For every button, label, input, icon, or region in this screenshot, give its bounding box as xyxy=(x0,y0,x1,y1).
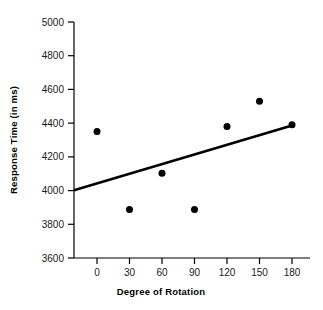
y-tick-label-3600: 3600 xyxy=(42,253,65,264)
data-point-180deg xyxy=(289,121,296,128)
x-axis-title: Degree of Rotation xyxy=(117,286,206,297)
data-point-30deg xyxy=(126,206,133,213)
data-point-120deg xyxy=(224,123,231,130)
y-tick-label-4800: 4800 xyxy=(42,50,65,61)
x-tick-label-30: 30 xyxy=(124,267,136,278)
data-point-150deg xyxy=(256,98,263,105)
y-axis-title: Response Time (in ms) xyxy=(8,86,19,194)
y-tick-label-4000: 4000 xyxy=(42,185,65,196)
data-point-60deg xyxy=(159,170,166,177)
data-point-0deg xyxy=(94,128,101,135)
x-tick-label-150: 150 xyxy=(251,267,268,278)
x-tick-label-90: 90 xyxy=(189,267,201,278)
x-tick-label-180: 180 xyxy=(284,267,301,278)
y-tick-label-4400: 4400 xyxy=(42,118,65,129)
data-point-90deg xyxy=(191,206,198,213)
y-tick-label-3800: 3800 xyxy=(42,219,65,230)
x-tick-label-120: 120 xyxy=(219,267,236,278)
y-tick-label-5000: 5000 xyxy=(42,17,65,28)
scatter-plot-figure: 3600 3800 4000 4200 4400 4600 4800 5000 … xyxy=(0,0,323,310)
x-tick-label-60: 60 xyxy=(156,267,168,278)
x-tick-label-0: 0 xyxy=(94,267,100,278)
y-tick-label-4600: 4600 xyxy=(42,84,65,95)
y-tick-label-4200: 4200 xyxy=(42,151,65,162)
